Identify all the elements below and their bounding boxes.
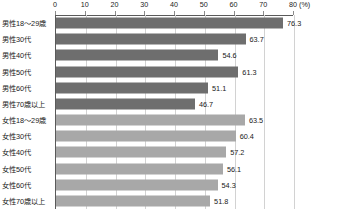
bar-value-label: 63.7: [250, 35, 264, 44]
bar[interactable]: [56, 131, 236, 142]
x-tick-label: 30: [140, 1, 148, 9]
bar-value-label: 57.2: [230, 148, 244, 157]
category-label: 男性30代: [2, 35, 31, 44]
bar-value-label: 76.3: [287, 19, 301, 28]
bar-value-label: 60.4: [240, 132, 254, 141]
bar-row[interactable]: 女性18～29歳63.5: [0, 112, 343, 128]
category-label: 女性60代: [2, 180, 31, 189]
x-tick-label: 40: [170, 1, 178, 9]
bar[interactable]: [56, 82, 208, 93]
bar[interactable]: [56, 163, 223, 174]
bar[interactable]: [56, 18, 283, 29]
category-label: 男性70歳以上: [2, 99, 45, 108]
bar-value-label: 61.3: [242, 67, 256, 76]
bar-value-label: 51.1: [212, 83, 226, 92]
bar-row[interactable]: 女性70歳以上51.8: [0, 193, 343, 209]
bar-value-label: 56.1: [227, 164, 241, 173]
bar[interactable]: [56, 66, 238, 77]
category-label: 女性50代: [2, 164, 31, 173]
bar[interactable]: [56, 98, 195, 109]
bar-row[interactable]: 女性50代56.1: [0, 161, 343, 177]
bar-value-label: 54.6: [222, 51, 236, 60]
bar-row[interactable]: 男性40代54.6: [0, 47, 343, 63]
bar-chart: 01020304050607080(%) 男性18～29歳76.3男性30代63…: [0, 0, 343, 210]
bar-row[interactable]: 男性60代51.1: [0, 80, 343, 96]
x-axis-unit-label: (%): [299, 1, 310, 9]
category-label: 男性40代: [2, 51, 31, 60]
bar-value-label: 54.3: [222, 180, 236, 189]
x-tick-label: 0: [53, 1, 57, 9]
bar-row[interactable]: 男性30代63.7: [0, 31, 343, 47]
category-label: 男性60代: [2, 83, 31, 92]
x-tick-label: 70: [259, 1, 267, 9]
category-label: 女性18～29歳: [2, 116, 46, 125]
bar-value-label: 46.7: [199, 99, 213, 108]
category-label: 男性18～29歳: [2, 19, 46, 28]
bar-value-label: 63.5: [249, 116, 263, 125]
bar-row[interactable]: 女性60代54.3: [0, 177, 343, 193]
category-label: 女性70歳以上: [2, 196, 45, 205]
bar-row[interactable]: 女性40代57.2: [0, 144, 343, 160]
bar-value-label: 51.8: [214, 196, 228, 205]
bar-row[interactable]: 女性30代60.4: [0, 128, 343, 144]
category-label: 女性40代: [2, 148, 31, 157]
bar-row[interactable]: 男性50代61.3: [0, 64, 343, 80]
bar[interactable]: [56, 115, 245, 126]
x-tick-label: 20: [111, 1, 119, 9]
x-tick-label: 50: [200, 1, 208, 9]
bar[interactable]: [56, 50, 218, 61]
bar[interactable]: [56, 179, 218, 190]
x-tick-label: 80: [289, 1, 297, 9]
x-tick-label: 60: [230, 1, 238, 9]
bar-row[interactable]: 男性18～29歳76.3: [0, 15, 343, 31]
x-tick-label: 10: [81, 1, 89, 9]
bar[interactable]: [56, 195, 210, 206]
category-label: 女性30代: [2, 132, 31, 141]
bar[interactable]: [56, 34, 246, 45]
category-label: 男性50代: [2, 67, 31, 76]
bar-row[interactable]: 男性70歳以上46.7: [0, 96, 343, 112]
bar[interactable]: [56, 147, 226, 158]
